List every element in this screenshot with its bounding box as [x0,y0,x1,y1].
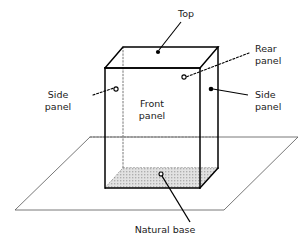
leader-line-side-panel-left [93,88,114,95]
natural-base-open-circle-marker [159,172,163,176]
top-face-dot-marker [156,50,160,54]
label-side-panel-right-line2: panel [255,101,281,112]
leader-line-top [159,22,181,50]
label-natural-base: Natural base [135,224,196,235]
label-front-panel-line1: Front [140,98,164,109]
diagram-labels: Top Rear panel Side panel Side panel Fro… [45,8,282,235]
label-side-panel-right-line1: Side [255,89,276,100]
label-top: Top [177,8,194,19]
natural-base-fill [105,168,218,188]
box-top-face [105,47,218,68]
label-rear-panel-line1: Rear [255,43,277,54]
label-side-panel-left-line2: panel [45,101,71,112]
rear-panel-open-circle-marker [182,75,186,79]
carton-panel-diagram: Top Rear panel Side panel Side panel Fro… [0,0,308,239]
leader-lines [93,22,249,222]
label-rear-panel-line2: panel [255,55,281,66]
side-panel-left-open-circle-marker [114,87,118,91]
side-panel-right-dot-marker [209,87,214,92]
label-front-panel-line2: panel [139,110,165,121]
natural-base-area [105,168,218,188]
label-side-panel-left-line1: Side [48,89,69,100]
diagram-canvas: Top Rear panel Side panel Side panel Fro… [0,0,308,239]
